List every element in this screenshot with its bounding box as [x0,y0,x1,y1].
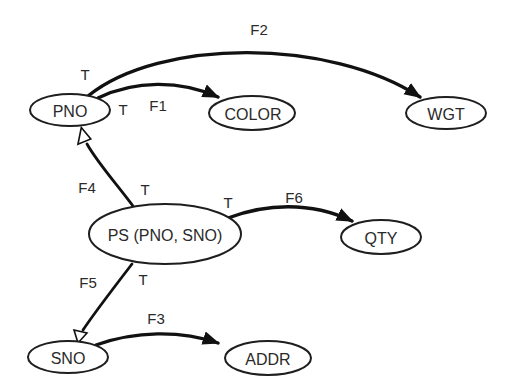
tail-marker-f1: T [118,101,127,118]
edge-f5: F5 T [74,264,148,343]
node-sno: SNO [28,341,108,373]
tail-marker-f2: T [80,66,89,83]
edge-label-f5: F5 [79,274,97,291]
tail-marker-f4: T [140,181,149,198]
node-wgt: WGT [406,97,486,129]
node-label-ps: PS (PNO, SNO) [108,227,223,244]
node-label-addr: ADDR [245,351,290,368]
node-label-sno: SNO [51,350,86,367]
edge-f4: F4 T [78,127,150,206]
node-label-pno: PNO [53,103,88,120]
node-label-wgt: WGT [427,106,465,123]
tail-marker-f5: T [138,271,147,288]
edge-label-f4: F4 [78,179,96,196]
edge-label-f2: F2 [250,21,268,38]
node-label-color: COLOR [225,106,282,123]
edge-f3: F3 [96,310,218,346]
node-qty: QTY [341,220,421,254]
node-addr: ADDR [225,341,311,375]
edge-f6: F6 T [223,189,352,222]
node-ps: PS (PNO, SNO) [89,204,241,264]
dependency-diagram: F2 T F1 T F4 T F6 T F5 T F3 PNO COLOR [0,0,511,386]
node-pno: PNO [30,94,110,126]
edge-f1: F1 T [98,84,218,117]
edge-label-f6: F6 [285,189,303,206]
edge-label-f3: F3 [147,310,165,327]
hollow-arrowhead-f4 [78,127,92,146]
tail-marker-f6: T [223,194,232,211]
edge-label-f1: F1 [149,97,167,114]
node-label-qty: QTY [365,230,398,247]
node-color: COLOR [209,96,295,130]
